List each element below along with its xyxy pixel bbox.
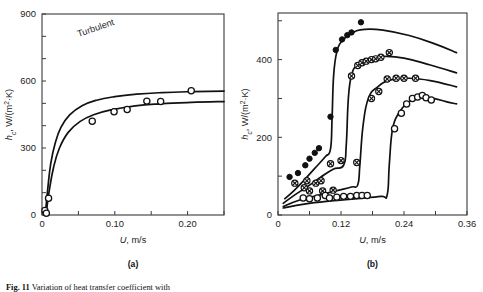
data-marker-filled <box>312 150 317 155</box>
data-marker-filled <box>307 156 312 161</box>
chart-panel-b: 00.120.240.360200400U, m/shc, W/(m2·K)(b… <box>240 0 483 270</box>
y-axis-tick-label: 0 <box>31 209 36 220</box>
data-marker-open <box>314 195 320 201</box>
x-axis-label: U, m/s <box>359 235 386 245</box>
x-axis-tick-label: 0.36 <box>458 218 476 229</box>
data-curve-series-filled <box>285 29 457 199</box>
caption-figure-number: Fig. 11 <box>6 283 30 292</box>
data-marker-open <box>89 118 95 124</box>
data-marker-filled <box>316 145 321 150</box>
panel-sublabel: (a) <box>128 259 139 269</box>
data-marker-open <box>341 193 347 199</box>
y-axis-label: hc, W/(m2·K) <box>239 88 253 139</box>
data-marker-filled <box>287 174 292 179</box>
plot-frame <box>278 13 467 215</box>
chart-svg-a: 00.100.200300600900U, m/shc, W/(m2·K)Tur… <box>0 0 242 270</box>
data-marker-filled <box>339 37 344 42</box>
data-marker-open <box>334 194 340 200</box>
data-marker-open <box>43 210 49 216</box>
data-marker-open <box>111 109 117 115</box>
data-marker-filled <box>295 170 300 175</box>
x-axis-tick-label: 0.12 <box>332 218 350 229</box>
data-marker-open <box>428 97 434 103</box>
y-axis-tick-label: 900 <box>20 8 36 19</box>
y-axis-tick-label: 400 <box>256 54 272 65</box>
y-axis-tick-label: 300 <box>20 142 36 153</box>
data-marker-open <box>144 98 150 104</box>
plot-annotation: Turbulent <box>76 17 116 39</box>
data-marker-open <box>300 195 306 201</box>
y-axis-tick-label: 600 <box>20 75 36 86</box>
x-axis-tick-label: 0.10 <box>106 218 124 229</box>
data-marker-open <box>124 106 130 112</box>
data-marker-filled <box>349 30 354 35</box>
x-axis-tick-label: 0.20 <box>178 218 196 229</box>
data-marker-open <box>398 110 404 116</box>
x-axis-tick-label: 0.24 <box>395 218 413 229</box>
panel-sublabel: (b) <box>367 259 378 269</box>
y-axis-tick-label: 200 <box>256 132 272 143</box>
data-marker-filled <box>358 20 363 25</box>
data-marker-filled <box>328 114 333 119</box>
x-axis-tick-label: 0 <box>275 218 280 229</box>
x-axis-tick-label: 0 <box>39 218 44 229</box>
data-marker-open <box>45 195 51 201</box>
chart-panel-a: 00.100.200300600900U, m/shc, W/(m2·K)Tur… <box>0 0 242 270</box>
chart-svg-b: 00.120.240.360200400U, m/shc, W/(m2·K)(b… <box>240 0 483 270</box>
data-marker-open <box>404 101 410 107</box>
caption-body: Variation of heat transfer coefficient w… <box>32 283 170 292</box>
x-axis-label: U, m/s <box>120 235 147 245</box>
data-marker-open <box>158 98 164 104</box>
y-axis-label: hc, W/(m2·K) <box>3 89 17 140</box>
y-axis-tick-label: 0 <box>267 209 272 220</box>
data-marker-open <box>188 88 194 94</box>
figure-caption: Fig. 11 Variation of heat transfer coeff… <box>6 283 480 292</box>
data-curve-curve-upper <box>45 91 224 215</box>
data-marker-open <box>326 195 332 201</box>
data-marker-open <box>364 192 370 198</box>
data-marker-open <box>391 126 397 132</box>
data-marker-open <box>347 193 353 199</box>
data-marker-open <box>306 196 312 202</box>
data-marker-filled <box>333 47 338 52</box>
data-curve-curve-lower <box>46 102 224 215</box>
data-marker-filled <box>303 163 308 168</box>
